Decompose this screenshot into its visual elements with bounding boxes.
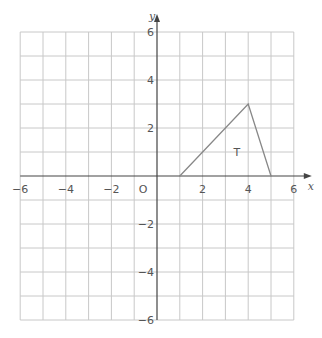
origin-label: O [139, 183, 148, 196]
y-tick-label: 4 [147, 74, 154, 87]
x-axis-label: x [308, 180, 315, 193]
y-tick-label: −2 [138, 218, 154, 231]
y-tick-label: 6 [147, 26, 154, 39]
x-axis-arrow-icon [304, 173, 312, 179]
x-tick-label: 2 [199, 183, 206, 196]
x-tick-label: −2 [103, 183, 119, 196]
y-tick-label: 2 [147, 122, 154, 135]
x-tick-label: −6 [12, 183, 28, 196]
y-tick-label: −6 [138, 314, 154, 327]
y-axis-label: y [148, 10, 156, 23]
x-tick-label: 6 [290, 183, 297, 196]
shape-label: T [232, 146, 240, 159]
x-tick-label: 4 [245, 183, 252, 196]
y-tick-label: −4 [138, 266, 154, 279]
coordinate-grid: xy−6−4−2246642−2−4−6OT [0, 0, 322, 338]
x-tick-label: −4 [58, 183, 74, 196]
